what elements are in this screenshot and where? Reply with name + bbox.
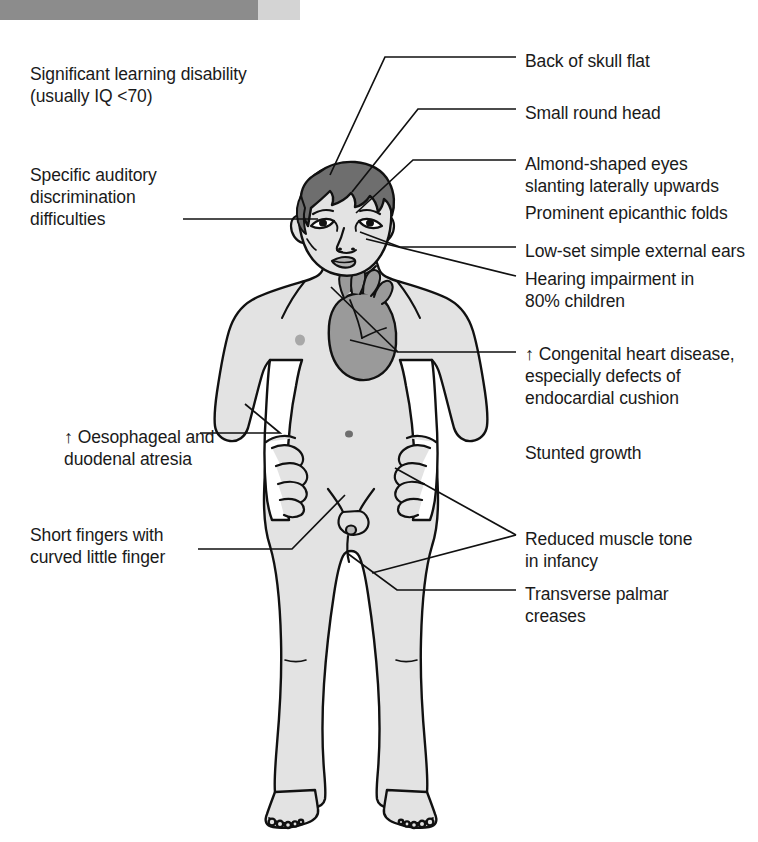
label-low-set-simple-external-ears: Low-set simple external ears: [525, 240, 745, 262]
leader-muscle-tone-lower: [372, 535, 516, 573]
leader-short-fingers: [198, 495, 345, 549]
leader-small-round-head: [352, 109, 516, 192]
label-small-round-head: Small round head: [525, 102, 661, 124]
leader-lines-layer: [0, 0, 758, 842]
leader-heart: [350, 340, 516, 352]
label-oesophageal-duodenal-atresia: ↑ Oesophageal and duodenal atresia: [64, 426, 214, 470]
leader-low-set-ears: [360, 232, 516, 247]
up-arrow-icon: ↑: [525, 344, 534, 364]
label-hearing-impairment: Hearing impairment in 80% children: [525, 268, 694, 312]
label-almond-shaped-eyes: Almond-shaped eyes slanting laterally up…: [525, 153, 719, 197]
leader-transverse-creases: [347, 553, 516, 590]
label-specific-auditory-discrimination: Specific auditory discrimination difficu…: [30, 164, 157, 230]
label-short-fingers: Short fingers with curved little finger: [30, 524, 165, 568]
label-significant-learning-disability: Significant learning disability (usually…: [30, 63, 247, 107]
leader-hearing: [366, 239, 516, 276]
leader-almond-eyes: [356, 160, 516, 213]
label-reduced-muscle-tone: Reduced muscle tone in infancy: [525, 528, 692, 572]
label-stunted-growth: Stunted growth: [525, 442, 641, 464]
up-arrow-icon: ↑: [64, 427, 73, 447]
leader-heart-2: [331, 287, 398, 352]
label-back-of-skull-flat: Back of skull flat: [525, 50, 650, 72]
leader-muscle-tone-upper: [395, 468, 516, 535]
down-syndrome-features-diagram: Significant learning disability (usually…: [0, 0, 758, 842]
label-congenital-heart-disease: ↑ Congenital heart disease, especially d…: [525, 343, 735, 409]
label-prominent-epicanthic-folds: Prominent epicanthic folds: [525, 202, 728, 224]
leader-back-of-skull: [330, 57, 516, 175]
label-transverse-palmar-creases: Transverse palmar creases: [525, 583, 669, 627]
